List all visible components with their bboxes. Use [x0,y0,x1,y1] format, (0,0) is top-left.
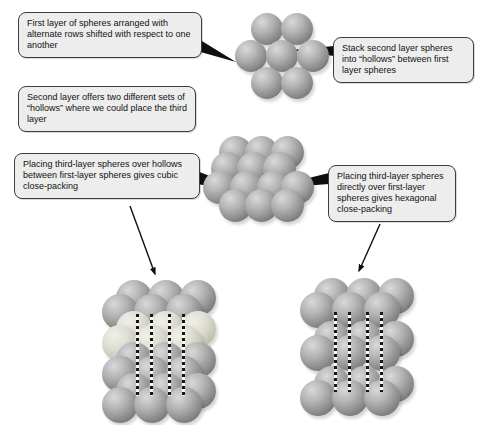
callout-pointer-hexagonal [264,173,329,189]
callout-pointer-first-layer [197,38,236,62]
callout-first-layer: First layer of spheres arranged with alt… [18,12,202,58]
callout-hexagonal-close-packing: Placing third-layer spheres directly ove… [328,165,456,222]
callout-cubic-close-packing: Placing third-layer spheres over hollows… [14,153,200,199]
arrow-to-cubic-stack [130,206,155,274]
callout-pointer-cubic [197,171,255,194]
callout-two-hollow-sets: Second layer offers two different sets o… [18,86,196,132]
arrow-to-hexagonal-stack [359,224,380,271]
callout-second-layer: Stack second layer spheres into “hollows… [333,37,474,83]
callout-pointer-second-layer [290,46,334,56]
close-packing-diagram: First layer of spheres arranged with alt… [0,0,482,425]
